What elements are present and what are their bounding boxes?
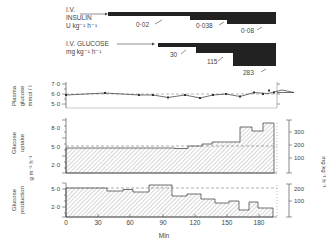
insulin-arrow-head-icon	[105, 13, 108, 16]
glucose-uptake-panel: Glucose uptake g m⁻² h⁻¹ 8·0 5·0 2·0 300…	[11, 118, 327, 188]
production-ytick-2: 2·0	[51, 204, 60, 210]
glucose-label-line1: I.V. GLUCOSE	[66, 40, 109, 47]
xtick-60: 60	[126, 219, 134, 226]
glucose-pointer-1	[181, 50, 186, 54]
glucose-pointer-2	[218, 57, 223, 61]
glucose-production-area	[66, 185, 273, 217]
xtick-90: 90	[159, 219, 167, 226]
uptake-y-label-line2: uptake	[19, 133, 25, 152]
plasma-ytick-5: 5·0	[51, 101, 60, 107]
uptake-ytick-2: 2·0	[51, 162, 60, 168]
glucose-bar-1	[158, 43, 198, 47]
plasma-y-label-line3: mmol / l	[27, 86, 33, 107]
glucose-value-2: 115	[207, 58, 218, 65]
glucose-bar-3	[233, 43, 276, 66]
insulin-value-2: 0·038	[196, 22, 213, 29]
insulin-bar-1	[108, 12, 200, 16]
plasma-y-label: Plasma glucose mmol / l	[11, 85, 33, 107]
production-y-label-line2: production	[19, 186, 25, 214]
insulin-pointer-2	[219, 22, 224, 25]
xtick-120: 120	[190, 219, 201, 226]
uptake-right-ytick-300: 300	[294, 129, 305, 135]
uptake-right-ytick-100: 100	[294, 155, 305, 161]
glucose-value-1: 30	[170, 51, 178, 58]
uptake-right-ytick-200: 200	[294, 142, 305, 148]
insulin-label-line1: I.V.	[66, 6, 75, 13]
plasma-y-label-line1: Plasma	[11, 85, 17, 106]
insulin-infusion-panel: I.V. INSULIN U kg⁻¹ h⁻¹ 0·02 0·038 0·08	[66, 6, 276, 34]
production-right-ytick-200: 200	[294, 186, 305, 192]
x-axis-label: Min	[159, 232, 170, 239]
production-ytick-5: 5·0	[51, 186, 60, 192]
glucose-value-3: 283	[243, 69, 254, 76]
insulin-bar-3	[227, 12, 276, 24]
x-axis: 0 30 60 90 120 150 180 Min	[64, 214, 265, 239]
plasma-y-label-line2: glucose	[19, 85, 25, 106]
production-y-label-line1: Glucose	[11, 188, 17, 211]
uptake-y-label: Glucose uptake g m⁻² h⁻¹	[11, 131, 34, 180]
glucose-production-panel: Glucose production 5·0 2·0 200 100	[11, 183, 305, 217]
plasma-glucose-line	[66, 90, 294, 98]
figure: I.V. INSULIN U kg⁻¹ h⁻¹ 0·02 0·038 0·08 …	[0, 0, 334, 246]
plasma-ytick-6: 6·0	[51, 91, 60, 97]
production-right-ytick-100: 100	[294, 198, 305, 204]
xtick-180: 180	[254, 219, 265, 226]
xtick-0: 0	[64, 219, 68, 226]
uptake-y-label-line1: Glucose	[11, 131, 17, 154]
insulin-pointer-3	[257, 27, 262, 30]
xtick-30: 30	[94, 219, 102, 226]
production-y-label: Glucose production	[11, 186, 25, 214]
glucose-uptake-area	[66, 123, 274, 173]
xtick-150: 150	[222, 219, 233, 226]
insulin-label-line2: INSULIN	[66, 14, 92, 21]
plasma-glucose-panel: Plasma glucose mmol / l 7·0 6·0 5·0	[11, 81, 294, 108]
glucose-label-units: mg kg⁻¹ h⁻¹	[66, 48, 102, 56]
insulin-value-1: 0·02	[136, 21, 149, 28]
insulin-value-3: 0·08	[241, 27, 254, 34]
insulin-bar-2	[190, 12, 228, 20]
right-units-label: mg kg⁻¹ h⁻¹	[321, 156, 327, 187]
left-units-label: g m⁻² h⁻¹	[28, 155, 34, 180]
glucose-pointer-3	[261, 69, 266, 72]
glucose-bar-2	[196, 43, 236, 53]
uptake-ytick-8: 8·0	[51, 125, 60, 131]
insulin-pointer-1	[155, 20, 162, 24]
glucose-arrow-head-icon	[152, 43, 155, 46]
plasma-ytick-7: 7·0	[51, 81, 60, 87]
uptake-ytick-5: 5·0	[51, 144, 60, 150]
glucose-infusion-panel: I.V. GLUCOSE mg kg⁻¹ h⁻¹ 30 115 283	[66, 40, 276, 76]
insulin-label-units: U kg⁻¹ h⁻¹	[66, 22, 98, 30]
